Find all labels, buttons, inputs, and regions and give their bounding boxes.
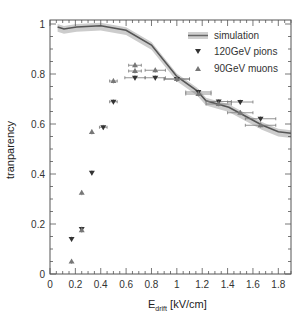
x-tick-label: 1.8: [271, 279, 285, 290]
y-tick-label: 0.8: [31, 69, 45, 80]
muon-data-point: [145, 67, 165, 73]
y-tick-label: 0.4: [31, 169, 45, 180]
pion-data-point: [145, 75, 165, 81]
pion-data-point: [99, 125, 107, 131]
muon-data-point: [110, 78, 118, 84]
x-tick-label: 0: [47, 279, 53, 290]
muon-data-point: [89, 129, 95, 135]
muon-data-point: [129, 62, 142, 68]
y-tick-label: 0.6: [31, 119, 45, 130]
muon-data-point: [69, 259, 75, 265]
y-axis-title: tranparency: [4, 120, 16, 179]
data-points: [69, 62, 276, 264]
x-tick-label: 0.6: [119, 279, 133, 290]
pion-data-point: [110, 99, 118, 105]
x-tick-label: 1.4: [221, 279, 235, 290]
pion-data-point: [69, 237, 75, 243]
muon-data-point: [129, 68, 142, 74]
legend-label-simulation: simulation: [214, 30, 259, 41]
muon-data-point: [79, 190, 85, 196]
x-tick-label: 0.8: [145, 279, 159, 290]
pion-data-point: [125, 75, 145, 81]
simulation-line: [58, 26, 291, 134]
x-tick-label: 1.2: [195, 279, 209, 290]
y-tick-label: 1: [39, 19, 45, 30]
x-axis-title-subscript: drift: [155, 305, 167, 312]
legend: simulation 120GeV pions 90GeV muons: [188, 30, 278, 74]
x-tick-label: 0.4: [94, 279, 108, 290]
legend-muon-marker-icon: [195, 66, 201, 71]
x-axis-title-main: E: [148, 298, 155, 310]
x-axis-title-unit: [kV/cm]: [167, 298, 207, 310]
legend-label-pions: 120GeV pions: [214, 46, 277, 57]
pion-data-point: [89, 170, 95, 176]
legend-pion-marker-icon: [195, 49, 201, 54]
legend-label-muons: 90GeV muons: [214, 63, 278, 74]
y-tick-label: 0.2: [31, 219, 45, 230]
plot-axes: [50, 20, 291, 274]
x-tick-label: 1.6: [246, 279, 260, 290]
x-tick-label: 0.2: [68, 279, 82, 290]
y-tick-label: 0: [39, 269, 45, 280]
x-tick-label: 1: [174, 279, 180, 290]
x-axis-title: Edrift [kV/cm]: [148, 298, 207, 312]
transparency-chart: 00.20.40.60.811.21.41.61.800.20.40.60.81…: [0, 0, 308, 325]
plot-frame: [50, 20, 291, 274]
simulation-curve: [58, 26, 291, 134]
